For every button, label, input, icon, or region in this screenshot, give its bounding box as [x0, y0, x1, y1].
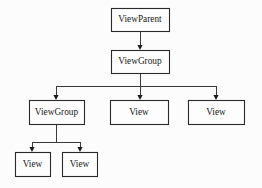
node-label: View: [206, 107, 226, 117]
node-label: ViewGroup: [35, 107, 79, 117]
node-view-group-root[interactable]: ViewGroup: [112, 51, 170, 74]
node-label: ViewGroup: [118, 56, 162, 66]
node-view-group-child[interactable]: ViewGroup: [30, 101, 85, 125]
arrowhead-icon: [137, 95, 142, 100]
node-view-right[interactable]: View: [189, 101, 245, 125]
arrowhead-icon: [77, 147, 82, 152]
node-label: View: [129, 107, 149, 117]
edge-view-group-child-to-view-leaf-left: [32, 124, 56, 149]
node-view-leaf-right[interactable]: View: [63, 153, 98, 177]
node-label: View: [70, 159, 90, 169]
edge-view-group-child-to-view-leaf-right: [56, 142, 80, 149]
arrowhead-icon: [137, 45, 142, 50]
edge-view-group-root-to-view-right: [140, 86, 216, 97]
arrowhead-icon: [29, 147, 34, 152]
nodes-layer: ViewParentViewGroupViewGroupViewViewView…: [16, 9, 245, 177]
edges-layer: [29, 31, 218, 152]
node-label: View: [23, 159, 43, 169]
diagram-canvas: ViewParentViewGroupViewGroupViewViewView…: [0, 0, 262, 188]
view-hierarchy-diagram: ViewParentViewGroupViewGroupViewViewView…: [0, 0, 262, 188]
node-label: ViewParent: [118, 14, 162, 24]
arrowhead-icon: [53, 95, 58, 100]
node-view-leaf-left[interactable]: View: [16, 153, 51, 177]
node-view-mid[interactable]: View: [111, 101, 169, 125]
arrowhead-icon: [213, 95, 218, 100]
edge-view-group-root-to-view-group-child: [56, 73, 140, 97]
node-view-parent[interactable]: ViewParent: [112, 9, 170, 32]
